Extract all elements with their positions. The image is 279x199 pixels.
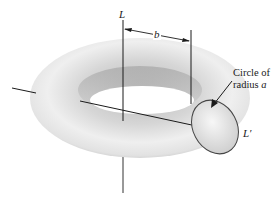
callout-line-2: radius a xyxy=(233,79,270,91)
label-b: b xyxy=(153,29,161,40)
torus-diagram: L b L′ Circle of radius a xyxy=(0,0,279,199)
label-L-prime: L′ xyxy=(243,128,252,139)
callout-line-1: Circle of xyxy=(233,67,270,79)
label-L: L xyxy=(119,9,125,20)
torus-figure xyxy=(0,0,279,199)
callout-label: Circle of radius a xyxy=(233,67,270,91)
